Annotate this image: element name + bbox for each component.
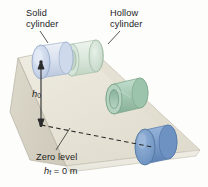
mid-cylinder-bore [109,90,118,109]
height-arrow-origin-dot [39,60,42,63]
mid-cylinder-far-cap [132,78,148,108]
final-height-equation: = 0 m [51,166,77,176]
label-zero-level: Zero level [36,152,77,163]
physics-figure-rolling-cylinders: Solid cylinder Hollow cylinder h0 Zero l… [0,0,208,187]
bottom-cylinder-far-cap [159,125,177,159]
leader-line-hollow-cylinder [108,31,120,44]
leader-line-solid-cylinder [40,31,48,43]
hollow-cylinder-far-cap [89,40,103,72]
solid-cylinder-top [32,42,73,79]
solid-cylinder-far-cap [59,42,73,74]
label-final-height: hf = 0 m [44,166,78,179]
initial-height-subscript: 0 [37,92,41,99]
label-hollow-cylinder: Hollow cylinder [110,8,142,31]
label-solid-cylinder: Solid cylinder [26,8,58,31]
label-initial-height: h0 [32,88,41,102]
bottom-cylinder-highlight [138,133,147,149]
